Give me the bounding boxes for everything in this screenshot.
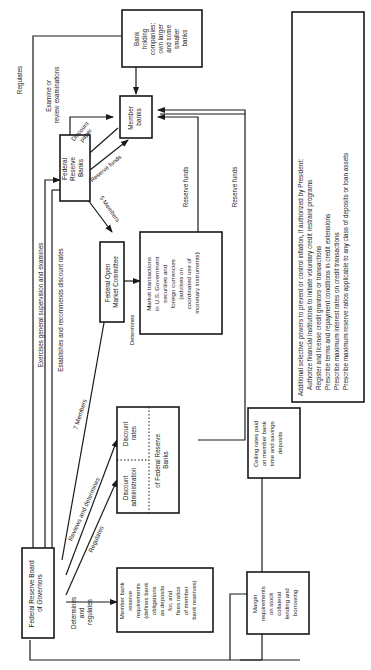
label-regulates-top: Regulates <box>16 66 24 94</box>
svg-text:Market transactions in U: Market transactions in U.S. Government s… <box>145 252 200 314</box>
svg-text:Reserve funds: Reserve funds <box>182 167 189 208</box>
svg-text:Reserve funds: Reserve funds <box>231 167 238 208</box>
node-member-banks: Member banks <box>120 96 152 138</box>
label-exercises: Exercises general supervision and examin… <box>37 243 45 368</box>
federal-reserve-structure-diagram: Federal Reserve Board of Governors Feder… <box>0 0 371 670</box>
node-bank-holding-companies: Bank holding companies: own larger and s… <box>122 10 202 67</box>
node-market-transactions: Market transactions in U.S. Government s… <box>140 232 222 334</box>
node-federal-reserve-banks: Federal Reserve Banks <box>60 135 90 201</box>
svg-text:Examine or review examin: Examine or review examinations <box>45 66 60 123</box>
node-board-of-governors: Federal Reserve Board of Governors <box>22 548 54 638</box>
node-fomc: Federal Open Market Committee <box>100 242 124 322</box>
edge-seven-members <box>62 300 108 560</box>
svg-text:Determines and reg: Determines and regulates <box>70 595 94 629</box>
svg-text:Regulates: Regulates <box>87 525 106 554</box>
edges <box>30 36 300 660</box>
edge-reserve-funds-market <box>158 117 198 232</box>
node-reserve-requirements: Member bank reserve requirements (define… <box>117 568 213 632</box>
board-line-2: of Governors <box>36 573 43 611</box>
node-ceiling-rates: Ceiling rates paid on member bank time a… <box>248 408 300 478</box>
node-discount-administration: Discount administration Discount rates o… <box>117 407 179 513</box>
node-margin-requirements: Margin requirements on stock collateral … <box>247 572 309 634</box>
edge-reviews-determines <box>66 440 117 575</box>
node-selective-powers: Additional selective powers to prevent o… <box>292 12 364 402</box>
svg-text:Federal Open Market Comm: Federal Open Market Committee <box>104 256 119 308</box>
svg-text:Determines: Determines <box>129 315 135 346</box>
board-line-1: Federal Reserve Board <box>28 560 35 628</box>
svg-text:Discount paper: Discount paper <box>70 119 96 147</box>
label-establishes: Establishes and recommends discount rate… <box>57 248 64 372</box>
edge-labels: Regulates Examine or review examinations… <box>16 66 238 629</box>
